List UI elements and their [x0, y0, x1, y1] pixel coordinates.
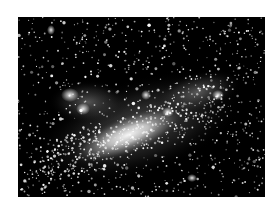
star — [128, 121, 130, 123]
star — [73, 67, 75, 69]
star — [162, 160, 164, 162]
star — [146, 143, 148, 145]
star — [138, 188, 140, 190]
star — [183, 134, 185, 136]
star — [234, 32, 235, 33]
star — [82, 21, 84, 23]
star — [102, 159, 104, 161]
star — [108, 135, 110, 137]
star — [62, 85, 63, 86]
star — [237, 143, 238, 144]
star — [150, 130, 151, 131]
star — [199, 114, 200, 115]
star — [69, 152, 71, 154]
star — [55, 81, 58, 84]
star — [47, 176, 48, 177]
star — [59, 117, 63, 121]
star — [94, 104, 96, 106]
star — [61, 144, 63, 146]
star — [200, 77, 201, 78]
star — [235, 131, 237, 133]
star — [199, 102, 200, 103]
star — [61, 37, 62, 38]
star — [46, 72, 47, 73]
star — [153, 29, 155, 31]
star — [114, 163, 115, 164]
star — [43, 171, 45, 173]
star — [193, 21, 194, 22]
star — [203, 86, 205, 88]
star — [225, 111, 226, 112]
star — [137, 107, 140, 110]
star — [221, 181, 222, 182]
star — [246, 132, 248, 134]
star — [188, 83, 189, 84]
star — [234, 122, 236, 124]
star — [39, 180, 40, 181]
star — [106, 135, 108, 137]
star — [171, 122, 173, 124]
star — [53, 172, 54, 173]
star — [135, 182, 136, 183]
star — [115, 55, 117, 57]
star — [177, 137, 179, 139]
star — [18, 133, 19, 134]
star — [39, 137, 41, 139]
star — [104, 193, 106, 195]
star — [135, 87, 138, 90]
star — [260, 158, 261, 159]
star — [233, 89, 234, 90]
star — [222, 106, 224, 108]
star — [158, 137, 160, 139]
star — [146, 135, 148, 137]
star — [249, 122, 251, 124]
star — [190, 144, 191, 145]
star — [18, 113, 20, 115]
star — [86, 91, 88, 93]
star — [243, 77, 245, 79]
star — [215, 96, 217, 98]
star — [23, 179, 26, 182]
star — [92, 141, 94, 143]
star — [154, 32, 155, 33]
star — [206, 103, 207, 104]
star — [18, 101, 19, 102]
star — [64, 139, 66, 141]
star — [221, 97, 222, 98]
star — [217, 127, 218, 128]
star — [73, 142, 75, 144]
star — [127, 143, 129, 145]
star — [205, 128, 207, 130]
star — [75, 156, 77, 158]
star — [197, 87, 199, 89]
star — [113, 111, 114, 112]
star — [260, 106, 261, 107]
star — [221, 94, 223, 96]
star — [220, 49, 221, 50]
star — [242, 169, 243, 170]
star — [181, 105, 184, 108]
star — [191, 78, 193, 80]
star — [235, 75, 236, 76]
star — [171, 53, 172, 54]
star — [47, 113, 48, 114]
star — [115, 23, 117, 25]
star — [203, 184, 204, 185]
star — [49, 87, 51, 89]
star — [30, 71, 33, 74]
star — [174, 143, 176, 145]
star — [208, 98, 209, 99]
star — [53, 154, 56, 157]
star — [51, 163, 52, 164]
star — [89, 139, 91, 141]
star — [21, 107, 23, 109]
star — [217, 68, 220, 71]
star — [143, 144, 145, 146]
star — [62, 149, 64, 151]
star — [196, 75, 198, 77]
star — [230, 24, 232, 26]
star — [126, 151, 128, 153]
star — [203, 41, 204, 42]
star — [76, 42, 78, 44]
star — [128, 185, 130, 187]
